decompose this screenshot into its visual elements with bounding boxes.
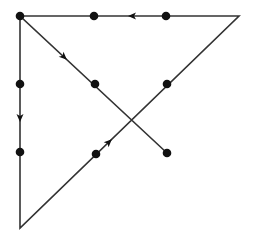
direction-arrows [17, 13, 137, 148]
path-line [20, 16, 239, 228]
dot-d13 [162, 12, 171, 21]
dot-d32 [92, 150, 101, 159]
dot-d33 [163, 149, 172, 158]
dot-d11 [16, 12, 25, 21]
dot-d21 [16, 80, 25, 89]
nine-dots-diagram [0, 0, 253, 241]
solution-path [20, 16, 239, 228]
dot-d22 [91, 80, 100, 89]
dot-d12 [90, 12, 99, 21]
dot-d31 [16, 148, 25, 157]
dot-d23 [163, 80, 172, 89]
